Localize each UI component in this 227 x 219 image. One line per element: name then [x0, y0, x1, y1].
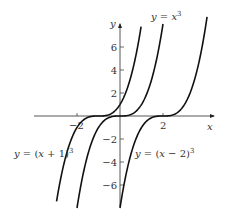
cubic-translations-plot: −22 −6−4−2246 x y y = x3 y = (x + 1)3 y …	[0, 0, 227, 219]
y-axis-label: y	[109, 18, 116, 29]
curve-2	[120, 17, 207, 208]
y-tick-label: 2	[111, 88, 117, 99]
label-x-minus-2-cubed: y = (x − 2)3	[134, 147, 194, 159]
curve-0	[57, 27, 142, 202]
x-axis-label: x	[207, 121, 213, 132]
y-tick-label: −6	[102, 180, 117, 191]
y-tick-label: 4	[111, 65, 117, 76]
y-tick-label: 6	[111, 42, 117, 53]
x-tick-label: 2	[160, 120, 166, 131]
y-tick-label: −4	[102, 157, 117, 168]
label-x-plus-1-cubed: y = (x + 1)3	[13, 147, 73, 159]
label-x-cubed: y = x3	[150, 10, 182, 22]
curves	[57, 17, 208, 208]
y-tick-label: −2	[102, 134, 117, 145]
